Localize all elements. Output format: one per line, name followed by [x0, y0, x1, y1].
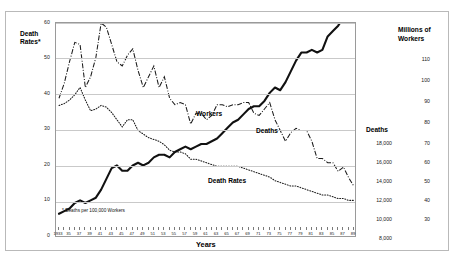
series-label-death-rates: Death Rates — [208, 177, 246, 184]
x-tick — [285, 227, 286, 230]
chart-figure: 60 50 40 30 20 10 0 Death Rates* Deaths … — [0, 0, 459, 268]
x-tick — [190, 227, 191, 230]
x-tick — [100, 227, 101, 230]
gridline — [56, 166, 355, 167]
x-tick — [184, 227, 185, 230]
plot-area — [55, 22, 356, 237]
x-tick — [121, 227, 122, 230]
x-tick — [169, 227, 170, 230]
x-tick — [216, 227, 217, 230]
x-tick — [248, 227, 249, 230]
workers-line — [59, 23, 354, 214]
x-tick — [253, 227, 254, 230]
left-axis-tick: 40 — [28, 90, 50, 96]
series-label-workers: Workers — [196, 110, 222, 117]
x-tick — [79, 227, 80, 230]
x-tick — [316, 227, 317, 230]
x-axis-title: Years — [196, 240, 216, 249]
x-tick — [300, 227, 301, 230]
workers-axis-tick: 40 — [400, 197, 430, 203]
x-tick — [116, 227, 117, 230]
x-tick-label: 61 — [203, 231, 208, 236]
x-tick — [69, 227, 70, 230]
left-axis-tick: 50 — [28, 54, 50, 60]
x-tick-label: 41 — [98, 231, 103, 236]
x-tick — [237, 227, 238, 230]
x-tick-label: 75 — [277, 231, 282, 236]
x-tick — [337, 227, 338, 230]
left-axis-tick: 20 — [28, 161, 50, 167]
x-tick — [327, 227, 328, 230]
left-axis-tick: 0 — [28, 232, 50, 238]
x-tick — [353, 227, 354, 230]
x-tick — [153, 227, 154, 230]
x-tick — [295, 227, 296, 230]
x-tick-label: 65 — [224, 231, 229, 236]
deaths-axis-tick: 12,000 — [362, 197, 392, 203]
x-tick — [137, 227, 138, 230]
x-tick-label: 57 — [182, 231, 187, 236]
left-axis-tick: 30 — [28, 125, 50, 131]
deaths-line — [59, 23, 354, 186]
deaths-axis-tick: 18,000 — [362, 140, 392, 146]
x-tick — [342, 227, 343, 230]
x-tick — [227, 227, 228, 230]
workers-axis-tick: 90 — [400, 98, 430, 104]
x-tick-label: 71 — [256, 231, 261, 236]
x-tick-label: 73 — [266, 231, 271, 236]
x-tick — [84, 227, 85, 230]
x-tick — [200, 227, 201, 230]
x-tick — [279, 227, 280, 230]
deaths-axis-tick: 10,000 — [362, 216, 392, 222]
x-tick-label: 1933 — [53, 231, 62, 236]
x-tick — [195, 227, 196, 230]
x-tick — [306, 227, 307, 230]
x-tick — [90, 227, 91, 230]
x-tick — [348, 227, 349, 230]
x-tick — [132, 227, 133, 230]
x-tick-label: 79 — [298, 231, 303, 236]
x-tick-label: 51 — [151, 231, 156, 236]
x-tick-label: 89 — [351, 231, 356, 236]
x-tick — [242, 227, 243, 230]
x-tick — [263, 227, 264, 230]
x-tick-label: 81 — [309, 231, 314, 236]
x-tick — [290, 227, 291, 230]
workers-axis-tick: 30 — [400, 216, 430, 222]
x-tick-label: 55 — [172, 231, 177, 236]
workers-axis-tick: 110 — [400, 56, 430, 62]
x-tick-label: 59 — [193, 231, 198, 236]
x-tick — [111, 227, 112, 230]
x-axis-tick-labels: 1933353739414345474951535557596163656769… — [55, 231, 356, 240]
x-tick — [74, 227, 75, 230]
x-tick-label: 87 — [340, 231, 345, 236]
workers-axis-tick: 70 — [400, 140, 430, 146]
x-tick-label: 67 — [235, 231, 240, 236]
x-tick-label: 63 — [214, 231, 219, 236]
workers-axis-tick: 80 — [400, 119, 430, 125]
deaths-axis-tick: 8,000 — [362, 235, 392, 241]
x-tick — [321, 227, 322, 230]
x-tick-label: 39 — [87, 231, 92, 236]
x-tick-label: 47 — [129, 231, 134, 236]
x-tick — [158, 227, 159, 230]
deaths-axis-title: Deaths — [366, 126, 400, 134]
deaths-axis-tick: 16,000 — [362, 159, 392, 165]
x-tick — [332, 227, 333, 230]
gridline — [56, 23, 355, 24]
x-tick-label: 35 — [66, 231, 71, 236]
x-tick — [311, 227, 312, 230]
x-tick — [163, 227, 164, 230]
deaths-axis-tick: 14,000 — [362, 178, 392, 184]
left-axis-tick: 10 — [28, 196, 50, 202]
x-tick-label: 37 — [77, 231, 82, 236]
x-tick — [105, 227, 106, 230]
x-tick — [142, 227, 143, 230]
workers-axis-tick: 50 — [400, 178, 430, 184]
gridline — [56, 202, 355, 203]
x-tick — [232, 227, 233, 230]
gridline — [56, 58, 355, 59]
workers-axis-title: Millions of Workers — [398, 26, 438, 43]
x-tick — [63, 227, 64, 230]
left-axis-tick: 60 — [28, 19, 50, 25]
